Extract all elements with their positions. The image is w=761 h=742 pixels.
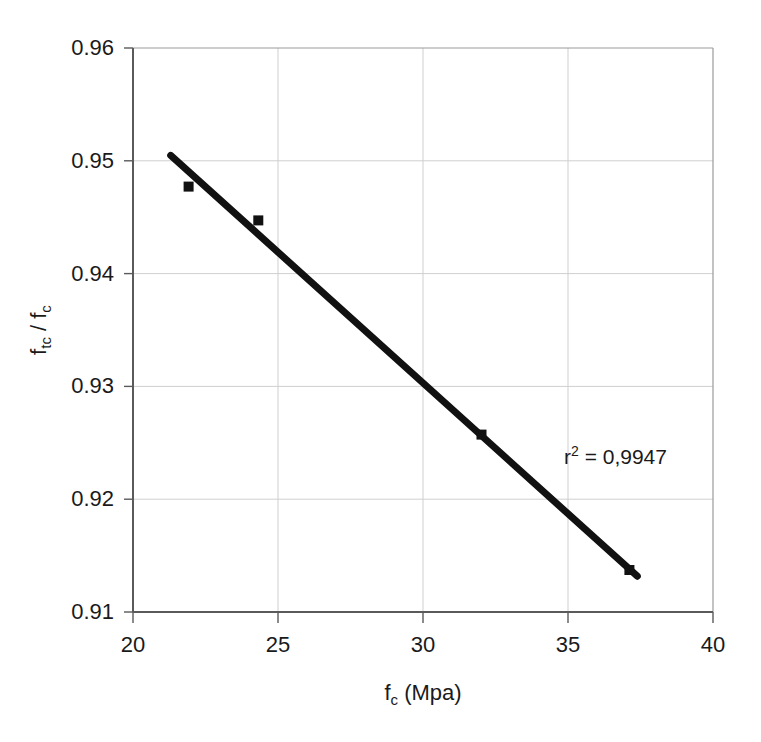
x-tick-label-4: 40 <box>701 632 725 657</box>
scatter-plot: 0.91 0.92 0.93 0.94 0.95 0.96 20 25 30 3… <box>0 0 761 742</box>
x-axis-ticks <box>133 612 713 623</box>
chart-container: 0.91 0.92 0.93 0.94 0.95 0.96 20 25 30 3… <box>0 0 761 742</box>
r-squared-base: r <box>564 445 571 468</box>
y-tick-label-0: 0.91 <box>71 599 114 624</box>
x-axis-title-tail: (Mpa) <box>398 680 462 705</box>
y-tick-label-2: 0.93 <box>71 373 114 398</box>
x-tick-label-1: 25 <box>266 632 290 657</box>
data-point-1 <box>253 215 263 225</box>
y-tick-label-3: 0.94 <box>71 261 114 286</box>
y-axis-title-sep: / <box>26 319 51 337</box>
r-squared-superscript: 2 <box>571 443 579 459</box>
y-axis-ticks <box>124 48 133 612</box>
y-tick-label-4: 0.95 <box>71 148 114 173</box>
y-tick-label-5: 0.96 <box>71 35 114 60</box>
x-tick-label-2: 30 <box>411 632 435 657</box>
y-axis-title: ftc / fc <box>26 305 54 355</box>
y-tick-label-1: 0.92 <box>71 486 114 511</box>
x-axis-title: fc (Mpa) <box>384 680 461 708</box>
data-point-2 <box>477 430 487 440</box>
y-axis-title-text: ftc / fc <box>26 305 54 355</box>
data-point-3 <box>624 565 634 575</box>
r-squared-value: = 0,9947 <box>579 445 667 468</box>
y-axis-title-sub1: tc <box>37 337 54 349</box>
r-squared-annotation: r2 = 0,9947 <box>564 443 667 468</box>
x-tick-label-0: 20 <box>121 632 145 657</box>
x-tick-label-3: 35 <box>556 632 580 657</box>
y-axis-title-sub2: c <box>37 305 54 313</box>
data-point-0 <box>184 182 194 192</box>
